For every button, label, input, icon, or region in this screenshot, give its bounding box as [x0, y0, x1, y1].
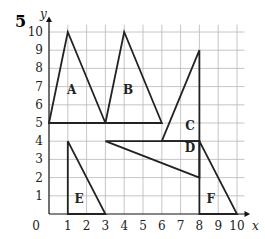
- x-tick-label: 1: [64, 219, 72, 233]
- x-axis-label: x: [252, 219, 259, 233]
- y-tick-label: 7: [35, 80, 43, 94]
- coordinate-grid: 12345678910123456789100xyABCDEF: [0, 0, 265, 239]
- x-tick-label: 6: [158, 219, 166, 233]
- x-tick-label: 10: [229, 219, 244, 233]
- x-tick-label: 3: [102, 219, 110, 233]
- x-tick-label: 7: [177, 219, 185, 233]
- shape-label-e: E: [75, 192, 84, 206]
- y-tick-label: 1: [35, 189, 43, 203]
- shape-label-f: F: [206, 192, 215, 206]
- shape-b: [105, 32, 161, 123]
- y-tick-label: 10: [28, 25, 43, 39]
- x-tick-label: 5: [139, 219, 147, 233]
- x-tick-label: 2: [83, 219, 91, 233]
- y-axis-label: y: [39, 7, 47, 21]
- origin-label: 0: [32, 219, 40, 233]
- x-tick-label: 9: [214, 219, 222, 233]
- shape-a: [49, 32, 105, 123]
- y-tick-label: 3: [35, 152, 43, 166]
- shape-label-b: B: [123, 83, 133, 97]
- x-tick-label: 4: [120, 219, 128, 233]
- y-tick-label: 4: [35, 134, 43, 148]
- y-axis-arrow-icon: [46, 17, 52, 22]
- shape-label-a: A: [66, 83, 77, 97]
- y-tick-label: 6: [35, 98, 43, 112]
- y-tick-label: 9: [35, 43, 43, 57]
- y-tick-label: 5: [35, 116, 43, 130]
- shape-label-c: C: [185, 119, 195, 133]
- shape-label-d: D: [185, 141, 195, 155]
- y-tick-label: 2: [35, 171, 43, 185]
- x-axis-arrow-icon: [245, 211, 251, 217]
- x-tick-label: 8: [196, 219, 204, 233]
- y-tick-label: 8: [35, 61, 43, 75]
